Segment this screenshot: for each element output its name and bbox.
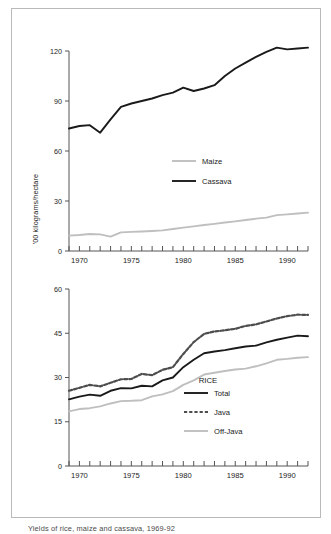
legend-label-maize: Maize [202,157,222,166]
y-tick-label: 45 [54,329,62,338]
y-tick-label: 90 [54,97,62,106]
y-tick-label: 15 [54,417,62,426]
series-line-java [69,315,308,391]
y-tick-label: 30 [54,373,62,382]
y-tick-label: 30 [54,197,62,206]
x-tick-label: 1985 [227,471,244,480]
x-tick-label: 1980 [175,256,192,265]
x-tick-label: 1975 [123,471,140,480]
y-tick-label: 120 [50,47,62,56]
chart-top-yields: 030609012019701975198019851990MaizeCassa… [12,9,322,267]
x-tick-label: 1980 [175,471,192,480]
legend-label-total: Total [214,389,230,398]
y-tick-label: 60 [54,147,62,156]
legend-label-cassava: Cassava [202,177,232,186]
y-tick-label: 0 [58,462,62,471]
legend-label-java: Java [214,408,231,417]
x-tick-label: 1970 [71,256,88,265]
series-line-total [69,336,308,400]
legend-label-off-java: Off-Java [214,427,243,436]
y-tick-label: 60 [54,285,62,294]
figure-caption: Yields of rice, maize and cassava, 1969-… [28,524,175,533]
x-tick-label: 1985 [227,256,244,265]
x-tick-label: 1975 [123,256,140,265]
chart-bottom-rice: 01530456019701975198019851990RICETotalJa… [12,271,322,501]
figure-frame: '00 kilograms/hectare 030609012019701975… [11,8,321,518]
x-tick-label: 1990 [279,471,296,480]
x-tick-label: 1970 [71,471,88,480]
series-line-maize [69,213,308,237]
series-line-cassava [69,48,308,133]
x-tick-label: 1990 [279,256,296,265]
y-tick-label: 0 [58,247,62,256]
legend-title: RICE [199,376,218,385]
